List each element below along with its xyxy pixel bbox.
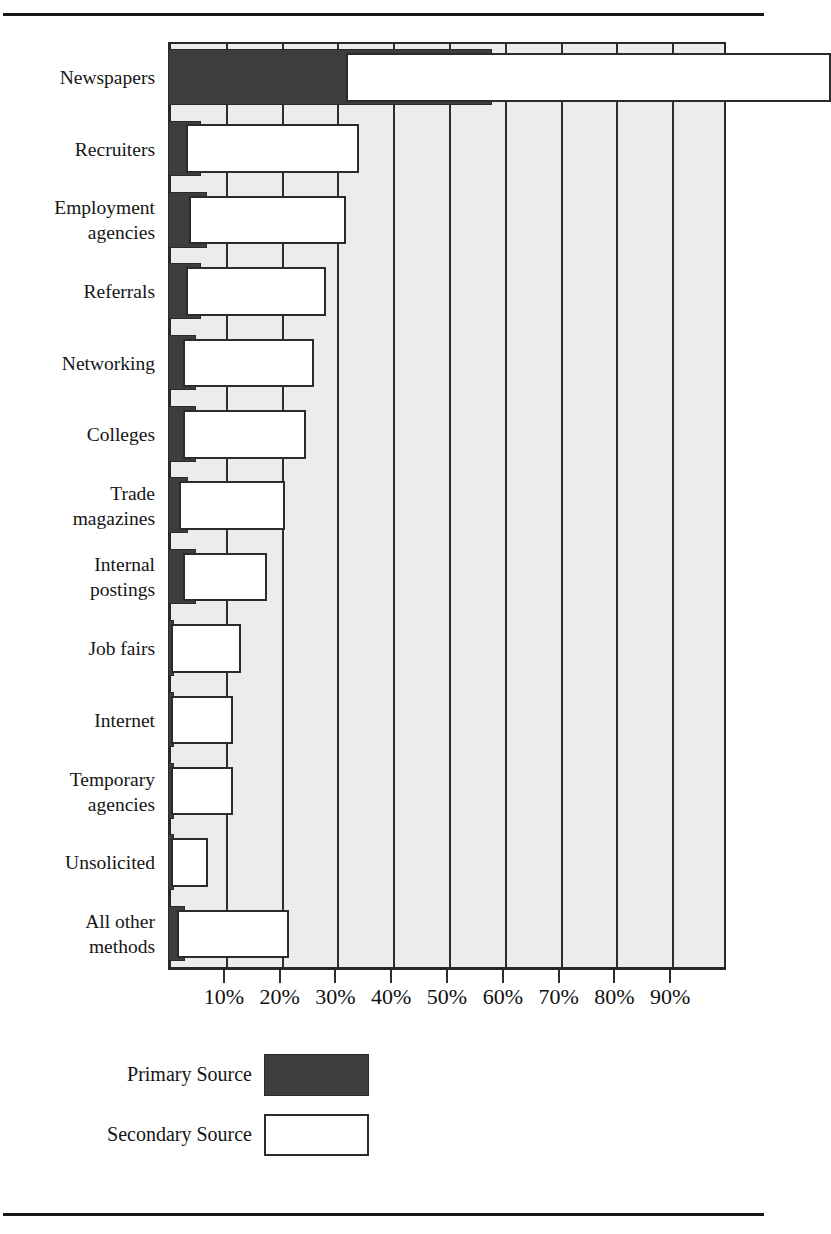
category-label-line: Employment — [0, 195, 155, 220]
bar-secondary-source[interactable] — [183, 410, 306, 459]
category-label-line: agencies — [0, 220, 155, 245]
category-label-line: Unsolicited — [0, 850, 155, 875]
bar-row[interactable] — [168, 542, 726, 613]
category-label-line: Colleges — [0, 422, 155, 447]
category-label-employment-agencies: Employmentagencies — [0, 195, 155, 245]
category-label-line: Newspapers — [0, 65, 155, 90]
category-label-referrals: Referrals — [0, 279, 155, 304]
x-tick-label-90%: 90% — [635, 982, 705, 1012]
category-label-recruiters: Recruiters — [0, 137, 155, 162]
bar-secondary-source[interactable] — [171, 838, 207, 887]
bar-secondary-source[interactable] — [186, 124, 359, 173]
bar-secondary-source[interactable] — [183, 339, 314, 388]
category-label-networking: Networking — [0, 351, 155, 376]
bar-secondary-source[interactable] — [189, 196, 345, 245]
bar-secondary-source[interactable] — [346, 53, 831, 102]
category-label-line: methods — [0, 934, 155, 959]
category-label-line: Internet — [0, 708, 155, 733]
bar-secondary-source[interactable] — [177, 910, 289, 959]
category-label-internal-postings: Internalpostings — [0, 552, 155, 602]
bar-row[interactable] — [168, 756, 726, 827]
bar-row[interactable] — [168, 399, 726, 470]
category-label-internet: Internet — [0, 708, 155, 733]
bar-row[interactable] — [168, 113, 726, 184]
category-label-line: Networking — [0, 351, 155, 376]
bar-secondary-source[interactable] — [186, 267, 326, 316]
bar-row[interactable] — [168, 256, 726, 327]
category-label-temporary-agencies: Temporaryagencies — [0, 767, 155, 817]
bar-row[interactable] — [168, 684, 726, 755]
category-label-line: Trade — [0, 481, 155, 506]
category-label-line: Job fairs — [0, 636, 155, 661]
category-label-unsolicited: Unsolicited — [0, 850, 155, 875]
category-label-line: magazines — [0, 506, 155, 531]
category-label-line: postings — [0, 577, 155, 602]
category-label-line: agencies — [0, 792, 155, 817]
bar-row[interactable] — [168, 899, 726, 970]
x-axis-tick-labels: 10%20%30%40%50%60%70%80%90% — [0, 982, 767, 1016]
bar-secondary-source[interactable] — [179, 481, 285, 530]
bar-secondary-source[interactable] — [171, 624, 241, 673]
category-label-line: Recruiters — [0, 137, 155, 162]
legend-label: Primary Source — [0, 1050, 252, 1098]
legend-swatch-dark-filled-square — [264, 1054, 369, 1096]
legend-swatch-white-outlined-square — [264, 1114, 369, 1156]
category-label-all-other-methods: All othermethods — [0, 909, 155, 959]
category-label-trade-magazines: Trademagazines — [0, 481, 155, 531]
category-label-colleges: Colleges — [0, 422, 155, 447]
bar-row[interactable] — [168, 613, 726, 684]
category-label-line: Temporary — [0, 767, 155, 792]
legend-item[interactable]: Primary Source — [0, 1050, 480, 1098]
bar-row[interactable] — [168, 42, 726, 113]
legend-item[interactable]: Secondary Source — [0, 1110, 480, 1158]
bar-row[interactable] — [168, 328, 726, 399]
legend-label: Secondary Source — [0, 1110, 252, 1158]
bar-row[interactable] — [168, 185, 726, 256]
bar-row[interactable] — [168, 827, 726, 898]
bar-secondary-source[interactable] — [171, 696, 232, 745]
category-label-job-fairs: Job fairs — [0, 636, 155, 661]
bar-row[interactable] — [168, 470, 726, 541]
category-label-line: All other — [0, 909, 155, 934]
category-label-newspapers: Newspapers — [0, 65, 155, 90]
chart-legend: Primary SourceSecondary Source — [0, 1050, 767, 1180]
category-label-line: Referrals — [0, 279, 155, 304]
category-axis-labels: NewspapersRecruitersEmploymentagenciesRe… — [0, 42, 163, 970]
bar-rows — [168, 42, 726, 970]
category-label-line: Internal — [0, 552, 155, 577]
bar-secondary-source[interactable] — [183, 553, 267, 602]
bar-secondary-source[interactable] — [171, 767, 232, 816]
